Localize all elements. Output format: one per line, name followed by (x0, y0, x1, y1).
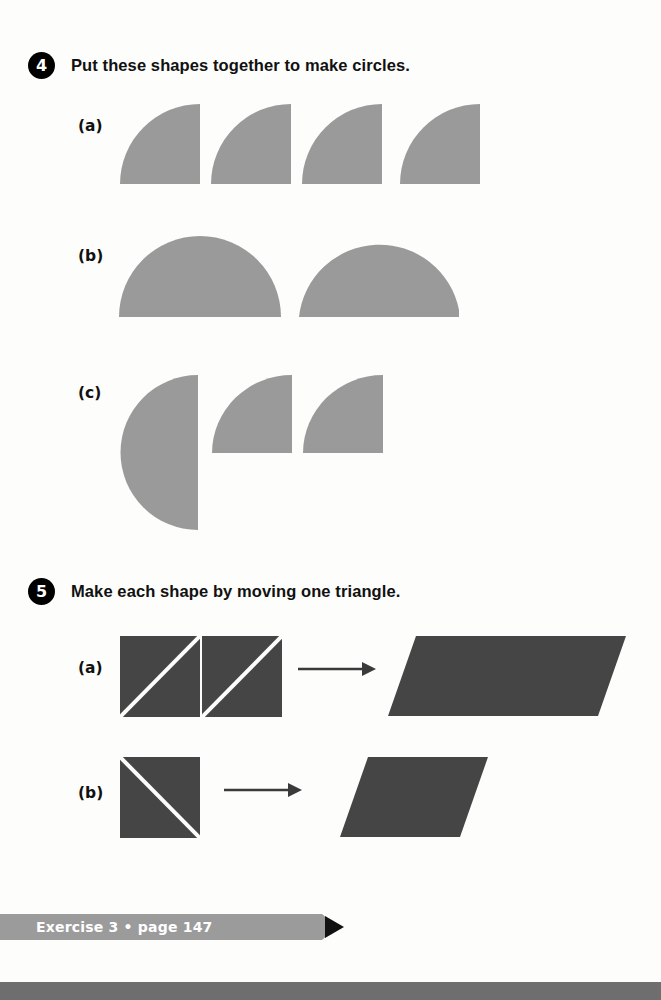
quarter-circle-4a-3 (302, 104, 382, 184)
part-label-4a: (a) (78, 117, 103, 135)
semicircle-4b-1 (119, 236, 281, 318)
footer-arrow-icon (325, 916, 344, 938)
parallelogram-5b (340, 757, 488, 837)
problem-number-badge-5: 5 (28, 578, 55, 605)
part-label-5a: (a) (78, 659, 103, 677)
workbook-page: 4 Put these shapes together to make circ… (0, 0, 661, 1000)
part-label-4b: (b) (78, 247, 103, 265)
quarter-circle-4c-2 (303, 375, 383, 453)
footer-bar: Exercise 3 • page 147 (0, 914, 322, 940)
right-arrow-icon-5a (296, 658, 378, 680)
problem-number-badge-4: 4 (28, 52, 55, 79)
semicircle-4b-2 (299, 236, 461, 318)
parallelogram-5a (388, 636, 626, 716)
part-label-4c: (c) (78, 384, 101, 402)
problem-5-instruction: Make each shape by moving one triangle. (71, 582, 400, 601)
problem-5-header: 5 Make each shape by moving one triangle… (28, 578, 400, 605)
square-with-diagonal-5a-2 (202, 636, 282, 717)
square-with-diagonal-5b-1 (120, 757, 200, 838)
quarter-circle-4a-2 (211, 104, 291, 184)
footer-banner: Exercise 3 • page 147 (0, 914, 344, 940)
footer-exercise-label: Exercise 3 • page 147 (36, 919, 213, 935)
quarter-circle-4a-1 (120, 104, 200, 184)
semicircle-4c-1 (120, 375, 199, 530)
part-label-5b: (b) (78, 784, 103, 802)
quarter-circle-4a-4 (400, 104, 480, 184)
problem-4-instruction: Put these shapes together to make circle… (71, 56, 410, 75)
problem-4-header: 4 Put these shapes together to make circ… (28, 52, 410, 79)
square-with-diagonal-5a-1 (120, 636, 200, 717)
right-arrow-icon-5b (222, 779, 304, 801)
quarter-circle-4c-1 (212, 375, 292, 453)
bottom-strip (0, 982, 661, 1000)
